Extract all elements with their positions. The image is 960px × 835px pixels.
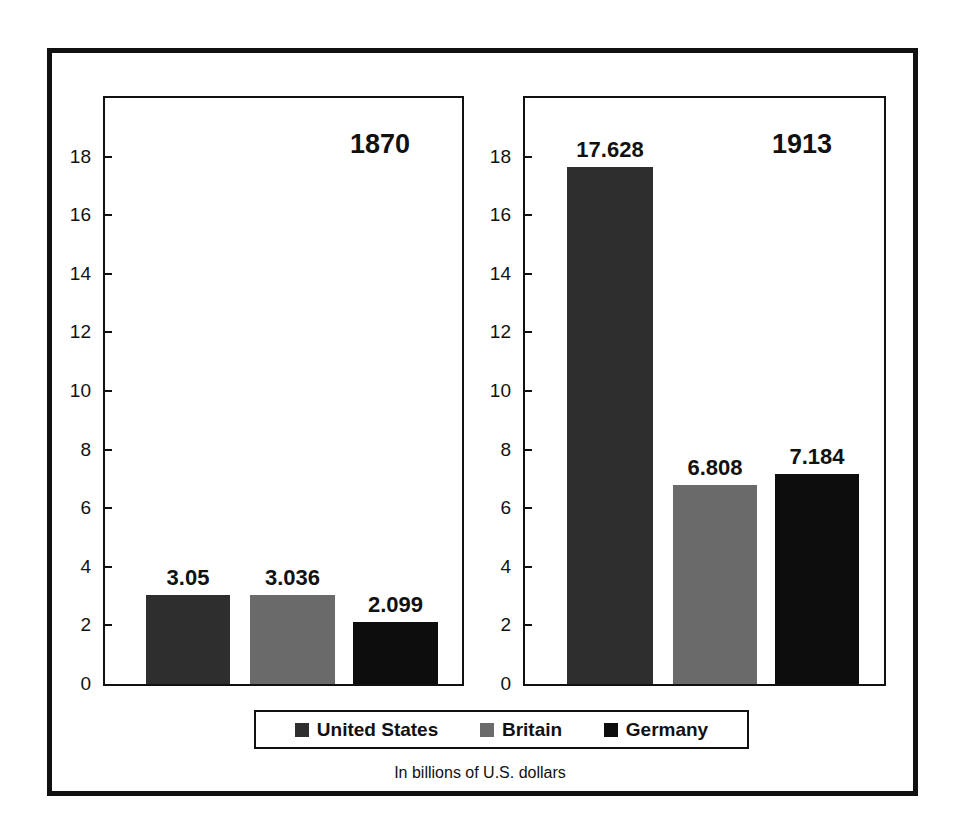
panel-year-title: 1913 (772, 129, 832, 159)
y-tick (103, 273, 112, 275)
y-tick-label: 12 (481, 322, 511, 342)
y-tick-label: 10 (61, 381, 91, 401)
y-tick-label: 12 (61, 322, 91, 342)
bar-britain (250, 595, 335, 684)
y-tick (103, 566, 112, 568)
y-tick-label: 8 (61, 440, 91, 460)
y-tick-label: 0 (61, 674, 91, 694)
y-tick-label: 2 (481, 615, 511, 635)
y-tick-label: 6 (481, 498, 511, 518)
y-tick-label: 18 (481, 147, 511, 167)
y-tick-label: 8 (481, 440, 511, 460)
y-tick (523, 390, 532, 392)
y-tick (523, 449, 532, 451)
y-tick-label: 0 (481, 674, 511, 694)
bar-germany (775, 474, 859, 684)
y-tick (523, 273, 532, 275)
y-tick (523, 331, 532, 333)
y-tick-label: 4 (481, 557, 511, 577)
bar-value-label: 17.628 (547, 138, 673, 162)
y-tick (523, 507, 532, 509)
bar-value-label: 2.099 (333, 593, 458, 617)
y-tick (523, 214, 532, 216)
y-tick-label: 14 (61, 264, 91, 284)
y-tick-label: 18 (61, 147, 91, 167)
y-tick-label: 14 (481, 264, 511, 284)
bar-united-states (146, 595, 230, 684)
bar-germany (353, 622, 438, 684)
y-tick (103, 390, 112, 392)
legend-item-britain: Britain (480, 719, 562, 741)
units-note: In billions of U.S. dollars (0, 764, 960, 782)
y-tick-label: 6 (61, 498, 91, 518)
y-tick-label: 10 (481, 381, 511, 401)
britain-swatch-icon (480, 723, 494, 737)
legend-item-germany: Germany (604, 719, 708, 741)
panel-year-title: 1870 (350, 129, 410, 159)
germany-swatch-icon (604, 723, 618, 737)
y-tick (523, 566, 532, 568)
bar-value-label: 7.184 (755, 445, 879, 469)
y-tick (523, 156, 532, 158)
y-tick-label: 4 (61, 557, 91, 577)
y-tick (523, 624, 532, 626)
y-tick (103, 331, 112, 333)
united-states-swatch-icon (295, 723, 309, 737)
y-tick-label: 16 (481, 205, 511, 225)
legend-label: United States (317, 719, 438, 741)
y-tick (103, 156, 112, 158)
bar-united-states (567, 167, 653, 684)
y-tick (103, 214, 112, 216)
y-tick (103, 624, 112, 626)
bar-value-label: 3.036 (230, 566, 355, 590)
legend-item-united-states: United States (295, 719, 438, 741)
legend-label: Germany (626, 719, 708, 741)
legend: United States Britain Germany (254, 710, 749, 749)
legend-label: Britain (502, 719, 562, 741)
y-tick (103, 507, 112, 509)
y-tick (103, 449, 112, 451)
y-tick-label: 2 (61, 615, 91, 635)
bar-britain (673, 485, 757, 684)
y-tick-label: 16 (61, 205, 91, 225)
